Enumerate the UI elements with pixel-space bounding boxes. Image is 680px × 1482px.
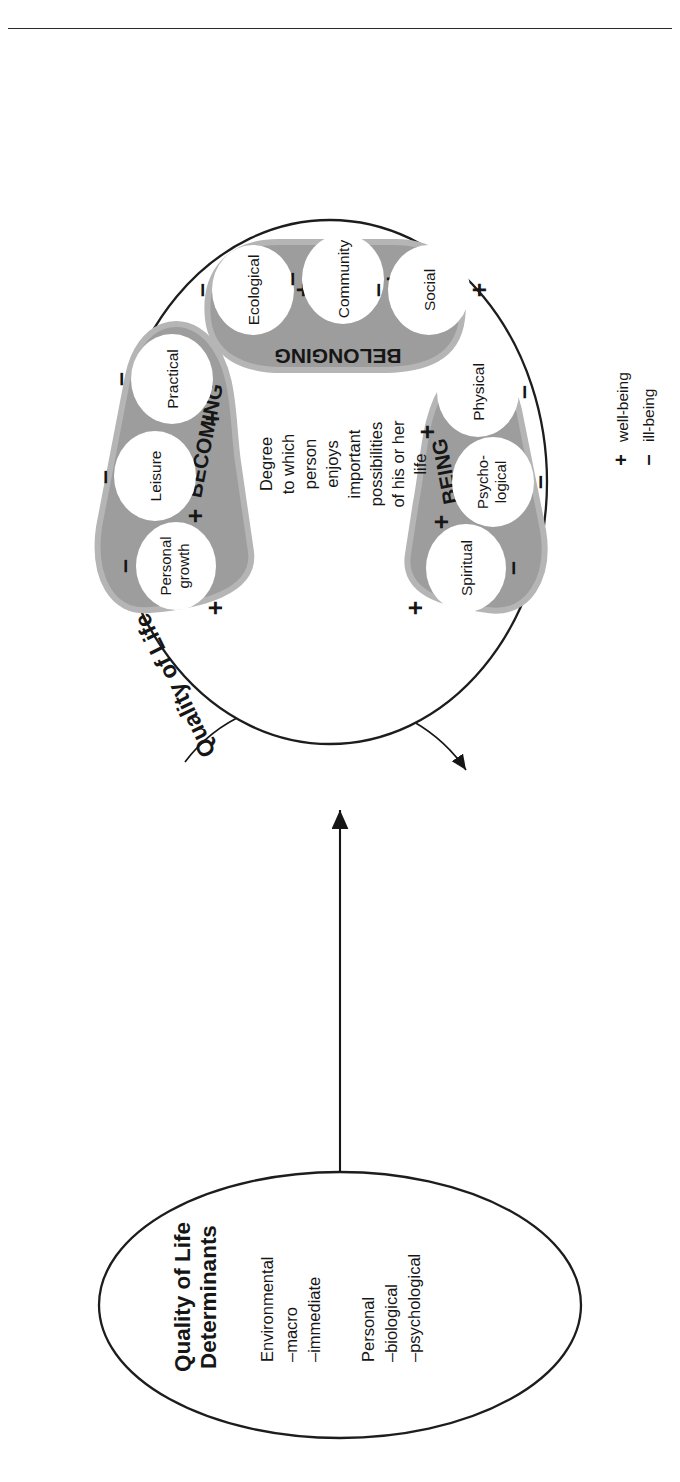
determinants-item-psychological: –psychological (405, 1254, 423, 1362)
personal-growth-label-line-1: Personal (157, 536, 174, 595)
figure-page: Quality of Life Determinants Environment… (0, 0, 680, 1482)
determinants-title-line-2: Determinants (196, 1225, 221, 1369)
legend-minus-icon: – (636, 454, 658, 465)
psychological-well-being-sign: + (427, 515, 455, 530)
spiritual-label: Spiritual (458, 540, 475, 596)
spiritual-well-being-sign: + (401, 601, 429, 616)
social-label: Social (421, 269, 438, 311)
social-ill-being-sign: – (363, 283, 391, 297)
practical-ill-being-sign: – (106, 372, 134, 386)
ecological-label: Ecological (245, 255, 262, 326)
determinants-item-immediate: –immediate (305, 1277, 323, 1362)
domain-belonging: BELONGING Ecological + – Community + – (187, 234, 493, 370)
legend-label-ill-being: ill-being (640, 389, 657, 442)
practical-label: Practical (164, 349, 181, 408)
physical-label: Physical (470, 363, 487, 421)
determinants-circle-group: Quality of Life Determinants Environment… (99, 1172, 581, 1438)
psychological-label-line-2: logical (492, 461, 509, 504)
physical-well-being-sign: + (413, 425, 441, 440)
leisure-ill-being-sign: – (90, 470, 118, 484)
center-text-line-7: of his or her (389, 420, 407, 508)
domain-label-belonging: BELONGING (274, 345, 401, 368)
legend-group: + well-being – ill-being (610, 372, 658, 466)
diagram-svg: Quality of Life Determinants Environment… (0, 0, 680, 1482)
center-text-line-3: person (301, 439, 319, 489)
legend-label-well-being: well-being (614, 372, 631, 443)
practical-well-being-sign: + (198, 412, 226, 427)
legend-item-well-being: + well-being (610, 372, 632, 466)
psychological-label-line-1: Psycho- (474, 455, 491, 509)
community-ill-being-sign: – (277, 272, 305, 286)
determinants-heading-personal: Personal (359, 1297, 377, 1362)
community-label: Community (335, 240, 352, 319)
domain-becoming: BECOMING Personal growth + – Leisure + – (90, 324, 251, 615)
connectors-group: Feedback loop (185, 689, 466, 1172)
center-text-line-1: Degree (257, 437, 275, 491)
determinants-item-biological: –biological (382, 1284, 400, 1362)
ecological-ill-being-sign: – (187, 283, 215, 297)
center-text-line-6: possibilities (367, 422, 385, 506)
determinants-title-line-1: Quality of Life (170, 1222, 195, 1372)
leisure-well-being-sign: + (181, 509, 209, 524)
determinants-heading-environmental: Environmental (258, 1257, 276, 1362)
center-text-line-8: life (411, 453, 429, 474)
psychological-ill-being-sign: – (525, 475, 553, 489)
center-text-line-4: enjoys (323, 440, 341, 488)
physical-ill-being-sign: – (509, 385, 537, 399)
center-text-line-2: to which (279, 434, 297, 495)
legend-plus-icon: + (610, 454, 632, 466)
quality-of-life-circle-group: Quality of Life BECOMING Personal growth… (90, 220, 553, 762)
personal-growth-ill-being-sign: – (110, 559, 138, 573)
rotated-figure-canvas: Quality of Life Determinants Environment… (0, 0, 680, 1482)
personal-growth-label-line-2: growth (175, 543, 192, 588)
legend-item-ill-being: – ill-being (636, 389, 658, 466)
spiritual-ill-being-sign: – (498, 561, 526, 575)
personal-growth-well-being-sign: + (201, 601, 229, 616)
leisure-label: Leisure (147, 451, 164, 502)
determinants-item-macro: –macro (282, 1307, 300, 1362)
social-well-being-sign: + (465, 283, 493, 298)
center-text-line-5: important (345, 429, 363, 498)
